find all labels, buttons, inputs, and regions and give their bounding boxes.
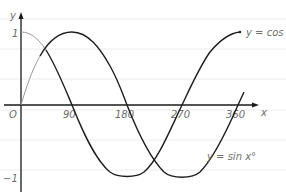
y-tick-1: 1 (12, 28, 18, 39)
x-tick-270: 270 (171, 109, 190, 120)
trig-graph: y x O 90 180 270 360 1 −1 y = cos x° y =… (0, 0, 286, 195)
origin-label: O (9, 109, 17, 120)
sin-curve-tail (238, 92, 244, 105)
cos-curve-end-dot (239, 31, 241, 33)
y-axis-arrow-icon (19, 12, 24, 19)
cos-series-label: y = cos x° (245, 27, 286, 38)
y-tick-minus-1: −1 (3, 173, 18, 184)
x-axis-label: x (260, 107, 267, 118)
cos-curve-start (21, 32, 46, 50)
y-axis-label: y (9, 10, 17, 21)
sin-series-label: y = sin x° (206, 151, 256, 162)
x-axis-arrow-icon (252, 103, 259, 108)
sin-curve-start (21, 56, 40, 105)
